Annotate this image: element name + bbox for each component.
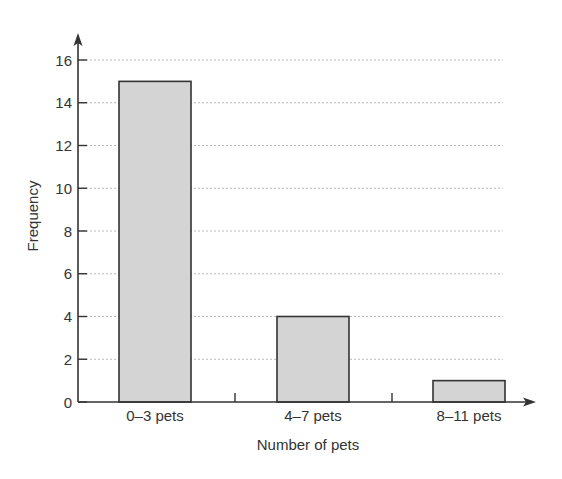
x-category-label: 8–11 pets — [437, 407, 502, 424]
bar-chart: 0246810121416 0–3 pets4–7 pets8–11 pets … — [0, 0, 562, 479]
y-tick-label: 16 — [55, 52, 72, 69]
y-tick-label: 10 — [55, 180, 72, 197]
y-tick-label: 14 — [55, 94, 72, 111]
y-axis-label: Frequency — [24, 180, 41, 251]
y-tick-label: 2 — [64, 351, 72, 368]
x-category-label: 0–3 pets — [126, 407, 184, 424]
y-tick-label: 6 — [64, 265, 72, 282]
x-category-labels: 0–3 pets4–7 pets8–11 pets — [126, 407, 501, 424]
y-tick-label: 4 — [64, 308, 72, 325]
x-category-label: 4–7 pets — [284, 407, 342, 424]
y-tick-label: 8 — [64, 223, 72, 240]
bar — [277, 317, 349, 403]
y-tick-label: 12 — [55, 137, 72, 154]
y-tick-labels: 0246810121416 — [55, 52, 87, 411]
bars — [119, 81, 505, 402]
x-axis-label: Number of pets — [257, 436, 360, 453]
bar — [433, 381, 505, 402]
bar — [119, 81, 191, 402]
y-tick-label: 0 — [64, 394, 72, 411]
